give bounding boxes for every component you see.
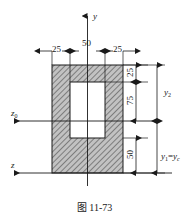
y-axis-label: y [93, 12, 97, 21]
figure-caption: 图 11-73 [0, 199, 189, 214]
figure-container: y z0 z 25 50 25 25 75 50 y2 y1=yc 图 11-7… [0, 0, 189, 223]
z-axis-label: z [11, 161, 15, 170]
y1-yc-label: y1=yc [161, 152, 180, 162]
dimension-left-flange-width: 25 [52, 45, 61, 54]
dimension-top-cover-depth: 25 [126, 67, 135, 79]
dimension-lower-depth: 50 [126, 149, 135, 161]
dimension-right-flange-width: 25 [113, 45, 122, 54]
yc-label-sub: c [177, 156, 180, 162]
dimension-opening-upper-depth: 75 [126, 95, 135, 107]
y2-label: y2 [164, 88, 171, 98]
dimension-central-opening-width: 50 [82, 39, 91, 48]
y2-label-sub: 2 [168, 92, 171, 98]
z0-axis-label-sub: 0 [15, 113, 18, 119]
z0-axis-label: z0 [11, 109, 18, 119]
diagram-canvas [0, 0, 189, 223]
